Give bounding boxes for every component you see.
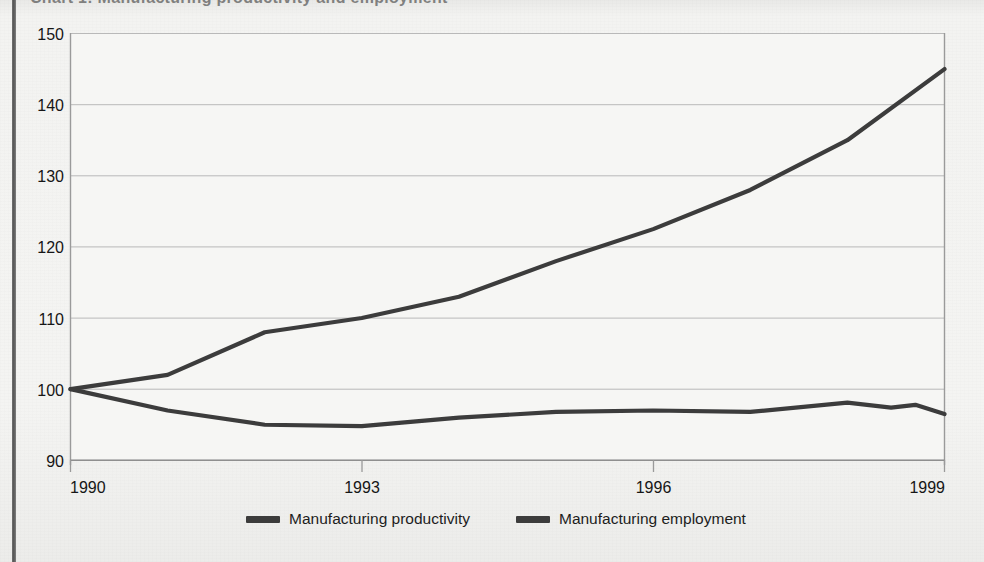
y-tick-labels: 150 140 130 120 110 100 90: [37, 26, 64, 470]
page-title: Chart 1: Manufacturing productivity and …: [30, 0, 730, 9]
y-tick-label: 90: [46, 453, 64, 470]
x-tick-marks: [71, 460, 945, 472]
page-title-text: Chart 1: Manufacturing productivity and …: [30, 0, 448, 7]
x-tick-label: 1993: [344, 479, 380, 496]
x-tick-label: 1990: [70, 479, 106, 496]
y-tick-label: 140: [37, 97, 64, 114]
y-tick-label: 150: [37, 26, 64, 43]
line-chart: 150 140 130 120 110 100 90 1990 1993 199…: [20, 10, 972, 510]
x-tick-label: 1999: [909, 479, 945, 496]
page-gutter-rule: [12, 0, 16, 562]
chart-figure: 150 140 130 120 110 100 90 1990 1993 199…: [20, 10, 972, 540]
legend-label: Manufacturing employment: [559, 510, 746, 528]
legend-swatch-icon: [516, 516, 550, 523]
screenshot-root: Chart 1: Manufacturing productivity and …: [0, 0, 984, 562]
x-tick-label: 1996: [636, 479, 672, 496]
legend-item-manufacturing-productivity[interactable]: Manufacturing productivity: [246, 510, 470, 528]
x-tick-labels: 1990 1993 1996 1999: [70, 479, 945, 496]
legend-item-manufacturing-employment[interactable]: Manufacturing employment: [516, 510, 746, 528]
legend-label: Manufacturing productivity: [289, 510, 470, 528]
chart-legend: Manufacturing productivity Manufacturing…: [20, 510, 972, 528]
y-tick-label: 130: [37, 168, 64, 185]
legend-swatch-icon: [246, 516, 280, 523]
y-tick-label: 120: [37, 239, 64, 256]
y-tick-label: 110: [38, 311, 64, 328]
y-tick-label: 100: [37, 382, 64, 399]
